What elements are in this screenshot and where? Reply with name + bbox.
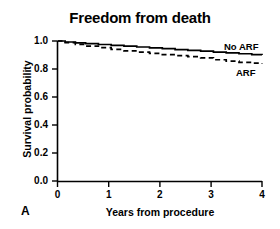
series-label-arf: ARF xyxy=(236,67,256,78)
x-tick-label-1: 1 xyxy=(99,190,119,200)
x-tick-label-3: 3 xyxy=(201,190,221,200)
panel-letter: A xyxy=(21,204,30,218)
y-axis-title: Survival probability xyxy=(21,39,33,179)
x-tick-label-2: 2 xyxy=(150,190,170,200)
figure-panel: Freedom from death 1.0 0.8 0.6 0.4 0.2 xyxy=(0,0,280,229)
x-axis-title: Years from procedure xyxy=(57,206,263,218)
x-tick-label-4: 4 xyxy=(252,190,272,200)
x-tick-label-0: 0 xyxy=(48,190,68,200)
y-axis-ticks xyxy=(52,41,57,181)
series-label-no-arf: No ARF xyxy=(224,41,258,52)
